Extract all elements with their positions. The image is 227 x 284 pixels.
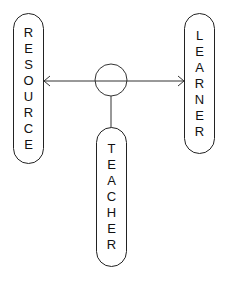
- letter: E: [107, 157, 116, 173]
- letter: E: [24, 41, 33, 57]
- letter: A: [107, 173, 116, 189]
- letter: H: [107, 205, 116, 221]
- learner-node: L E A R N E R: [184, 13, 215, 154]
- letter: E: [195, 108, 204, 124]
- letter: E: [195, 44, 204, 60]
- letter: E: [107, 221, 116, 237]
- resource-label: R E S O U R C E: [23, 25, 33, 153]
- letter: N: [195, 92, 204, 108]
- letter: L: [196, 28, 203, 44]
- letter: R: [195, 76, 204, 92]
- letter: C: [24, 121, 33, 137]
- letter: A: [195, 60, 204, 76]
- letter: O: [23, 73, 33, 89]
- letter: S: [24, 57, 33, 73]
- letter: R: [24, 105, 33, 121]
- letter: U: [24, 89, 33, 105]
- letter: R: [195, 124, 204, 140]
- hub-circle: [95, 64, 127, 96]
- teacher-node: T E A C H E R: [96, 127, 127, 267]
- letter: T: [108, 141, 116, 157]
- letter: E: [24, 137, 33, 153]
- letter: C: [107, 189, 116, 205]
- letter: R: [107, 237, 116, 253]
- teacher-label: T E A C H E R: [107, 141, 116, 253]
- learner-label: L E A R N E R: [195, 28, 204, 140]
- letter: R: [24, 25, 33, 41]
- resource-node: R E S O U R C E: [13, 13, 44, 164]
